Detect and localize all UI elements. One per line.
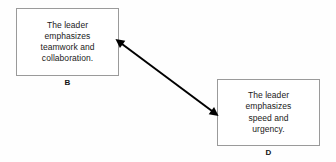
double-headed-arrow-connector bbox=[122, 44, 212, 111]
node-label-d: D bbox=[217, 148, 320, 157]
node-box-d[interactable]: The leader emphasizes speed and urgency. bbox=[217, 79, 320, 146]
node-label-b: B bbox=[16, 78, 119, 87]
node-box-b[interactable]: The leader emphasizes teamwork and colla… bbox=[16, 8, 119, 76]
node-box-d-text: The leader emphasizes speed and urgency. bbox=[238, 90, 300, 135]
node-box-b-text: The leader emphasizes teamwork and colla… bbox=[33, 20, 103, 65]
diagram-canvas: The leader emphasizes teamwork and colla… bbox=[0, 0, 336, 162]
